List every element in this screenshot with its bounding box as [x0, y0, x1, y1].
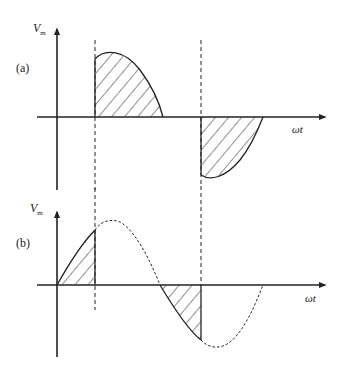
panel-label-b: (b): [16, 236, 30, 250]
y-axis-label-a: Vm: [33, 21, 46, 37]
y-axis-label-b: Vm: [30, 201, 43, 217]
waveform-dashed-b2: [201, 285, 263, 347]
panel-label-a: (a): [16, 61, 29, 75]
hatched-area-positive: [95, 45, 165, 120]
panel-a: Vm (a) ωt: [16, 21, 325, 190]
x-axis-label-b: ωt: [305, 292, 317, 304]
panel-b: Vm (b) ωt: [16, 186, 325, 357]
waveform-dashed-b1: [95, 220, 160, 285]
waveform-diagram: Vm (a) ωt Vm (b) ωt: [0, 0, 342, 372]
hatched-area-negative: [200, 115, 266, 185]
x-axis-label-a: ωt: [292, 123, 304, 135]
